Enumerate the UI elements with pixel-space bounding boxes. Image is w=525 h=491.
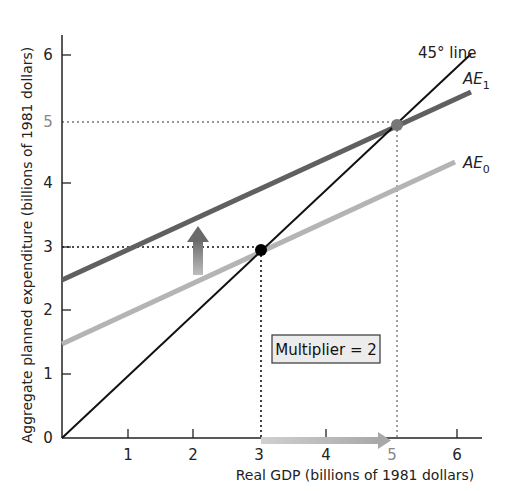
multiplier-chart: 0 1 2 3 4 5 6 1 2 3 4 5 6 Real GDP (bill… — [0, 0, 525, 491]
initial-equilibrium-point — [255, 244, 267, 256]
multiplier-callout: Multiplier = 2 — [272, 335, 380, 363]
line-45-degree — [62, 54, 471, 438]
x-tick-label-2: 2 — [188, 446, 198, 464]
x-tick-label-6: 6 — [452, 446, 462, 464]
y-tick-label-4: 4 — [43, 174, 53, 192]
x-tick-label-4: 4 — [321, 446, 331, 464]
y-tick-label-0: 0 — [43, 429, 53, 447]
y-tick-label-2: 2 — [43, 301, 53, 319]
multiplier-text: Multiplier = 2 — [275, 341, 377, 359]
line-45-label: 45° line — [418, 44, 476, 62]
x-axis-title: Real GDP (billions of 1981 dollars) — [236, 467, 475, 483]
x-tick-label-1: 1 — [123, 446, 133, 464]
ae1-label: AE1 — [462, 70, 490, 92]
new-equilibrium-point — [391, 119, 403, 131]
y-tick-labels: 0 1 2 3 4 5 6 — [43, 46, 53, 447]
x-tick-label-3: 3 — [254, 446, 264, 464]
ae0-label: AE0 — [462, 154, 490, 176]
y-tick-label-1: 1 — [43, 365, 53, 383]
y-axis-title: Aggregate planned expenditure (billions … — [19, 47, 35, 444]
y-tick-label-5: 5 — [43, 113, 53, 131]
y-tick-label-6: 6 — [43, 46, 53, 64]
x-tick-labels: 1 2 3 4 5 6 — [123, 446, 462, 464]
y-tick-label-3: 3 — [43, 238, 53, 256]
x-tick-label-5: 5 — [387, 446, 397, 464]
up-arrow-icon — [187, 226, 209, 275]
